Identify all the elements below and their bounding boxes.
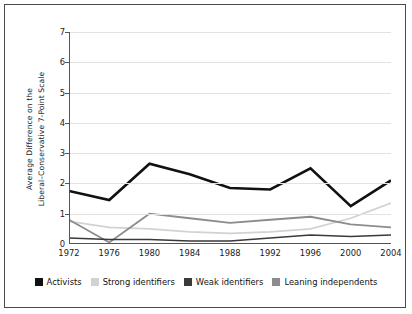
legend-swatch-icon <box>272 278 280 286</box>
y-tick-mark <box>65 153 69 154</box>
gridline <box>69 183 391 184</box>
y-tick-label: 3 <box>45 148 65 158</box>
x-axis-line <box>69 243 391 244</box>
legend-label: Weak identifiers <box>196 277 264 287</box>
gridline <box>69 214 391 215</box>
legend-label: Leaning independents <box>284 277 377 287</box>
x-tick-label: 1980 <box>139 248 160 258</box>
legend-swatch-icon <box>184 278 192 286</box>
y-tick-label: 4 <box>45 118 65 128</box>
chart-legend: ActivistsStrong identifiersWeak identifi… <box>5 277 407 287</box>
x-tick-label: 1992 <box>260 248 281 258</box>
y-axis-line <box>69 32 70 244</box>
x-tick-label: 1984 <box>179 248 200 258</box>
y-tick-label: 6 <box>45 57 65 67</box>
y-tick-mark <box>65 62 69 63</box>
x-tick-label: 1976 <box>99 248 120 258</box>
series-line <box>69 164 391 206</box>
gridline <box>69 32 391 33</box>
x-tick-label: 1988 <box>219 248 240 258</box>
legend-item[interactable]: Strong identifiers <box>91 277 175 287</box>
y-tick-mark <box>65 93 69 94</box>
legend-label: Strong identifiers <box>103 277 175 287</box>
legend-label: Activists <box>47 277 82 287</box>
y-tick-label: 2 <box>45 178 65 188</box>
line-chart: Average Difference on the Liberal–Conser… <box>5 5 407 309</box>
y-tick-mark <box>65 32 69 33</box>
y-tick-mark <box>65 123 69 124</box>
gridline <box>69 93 391 94</box>
x-tick-label: 2004 <box>380 248 401 258</box>
legend-swatch-icon <box>91 278 99 286</box>
gridline <box>69 62 391 63</box>
plot-area <box>69 32 391 244</box>
x-tick-label: 1996 <box>300 248 321 258</box>
x-tick-label: 1972 <box>58 248 79 258</box>
y-axis-ticks: 01234567 <box>41 5 65 309</box>
chart-frame: Average Difference on the Liberal–Conser… <box>4 4 406 308</box>
y-tick-label: 7 <box>45 27 65 37</box>
legend-swatch-icon <box>35 278 43 286</box>
x-tick-label: 2000 <box>340 248 361 258</box>
x-axis-ticks: 197219761980198419881992199620002004 <box>69 248 391 264</box>
series-line <box>69 203 391 233</box>
gridline <box>69 153 391 154</box>
y-tick-label: 5 <box>45 88 65 98</box>
y-tick-mark <box>65 183 69 184</box>
y-tick-label: 1 <box>45 209 65 219</box>
gridline <box>69 123 391 124</box>
legend-item[interactable]: Activists <box>35 277 82 287</box>
legend-item[interactable]: Leaning independents <box>272 277 377 287</box>
y-tick-mark <box>65 214 69 215</box>
legend-item[interactable]: Weak identifiers <box>184 277 264 287</box>
series-lines <box>69 32 391 244</box>
